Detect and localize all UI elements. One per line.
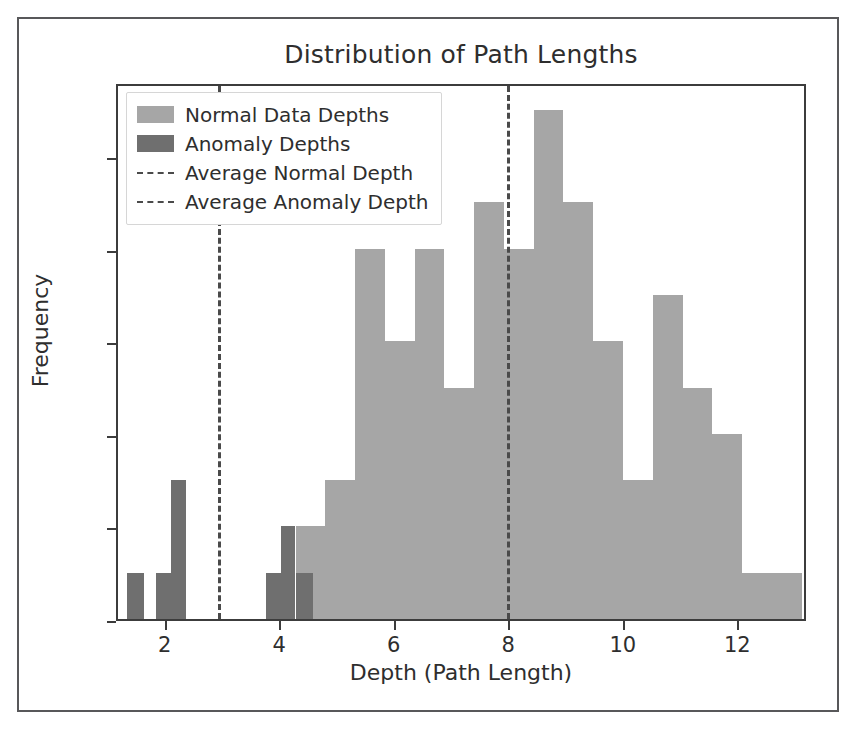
legend-dashed-line-icon xyxy=(137,201,174,203)
average-depth-line xyxy=(507,86,510,619)
legend-swatch-icon xyxy=(137,135,174,152)
histogram-bar xyxy=(712,434,742,619)
y-axis-tick xyxy=(107,436,116,438)
x-axis-label: Depth (Path Length) xyxy=(116,660,806,685)
histogram-bar xyxy=(683,388,713,619)
histogram-bar xyxy=(355,249,385,619)
histogram-bar xyxy=(171,480,186,619)
y-axis-tick xyxy=(107,343,116,345)
x-axis-tick-label: 4 xyxy=(273,633,286,657)
histogram-bar xyxy=(653,295,683,619)
x-axis-ticks: 24681012 xyxy=(116,621,806,661)
x-axis-tick xyxy=(165,621,167,630)
x-axis-tick-label: 8 xyxy=(502,633,515,657)
x-axis-tick-label: 12 xyxy=(724,633,751,657)
legend-swatch-icon xyxy=(137,106,174,123)
legend-item: Average Normal Depth xyxy=(137,158,429,187)
figure-canvas: Distribution of Path Lengths 0246810 246… xyxy=(0,0,856,729)
legend-item: Average Anomaly Depth xyxy=(137,187,429,216)
histogram-bar xyxy=(593,341,623,619)
legend-item: Normal Data Depths xyxy=(137,100,429,129)
legend-item-label: Average Normal Depth xyxy=(185,161,413,185)
histogram-bar xyxy=(296,573,313,619)
x-axis-tick-label: 10 xyxy=(609,633,636,657)
histogram-bar xyxy=(156,573,171,619)
histogram-bar xyxy=(534,110,564,619)
histogram-bar xyxy=(281,526,296,619)
histogram-bar xyxy=(772,573,802,619)
histogram-bar xyxy=(563,202,593,619)
x-axis-tick xyxy=(394,621,396,630)
histogram-bar xyxy=(325,480,355,619)
histogram-bar xyxy=(385,341,415,619)
histogram-bar xyxy=(444,388,474,619)
x-axis-tick xyxy=(508,621,510,630)
x-axis-tick-label: 6 xyxy=(387,633,400,657)
x-axis-tick xyxy=(279,621,281,630)
y-axis-tick xyxy=(107,158,116,160)
x-axis-tick xyxy=(737,621,739,630)
histogram-bar xyxy=(742,573,772,619)
y-axis-tick xyxy=(107,528,116,530)
legend-dashed-line-icon xyxy=(137,172,174,174)
chart-legend: Normal Data DepthsAnomaly DepthsAverage … xyxy=(126,92,442,225)
x-axis-tick-label: 2 xyxy=(158,633,171,657)
histogram-bar xyxy=(127,573,144,619)
x-axis-tick xyxy=(623,621,625,630)
y-axis-tick xyxy=(107,251,116,253)
histogram-bar xyxy=(415,249,445,619)
legend-item-label: Normal Data Depths xyxy=(185,103,389,127)
page-title: Distribution of Path Lengths xyxy=(116,40,806,69)
y-axis-tick xyxy=(107,621,116,623)
legend-item-label: Anomaly Depths xyxy=(185,132,350,156)
histogram-bar xyxy=(623,480,653,619)
histogram-bar xyxy=(266,573,281,619)
histogram-bar xyxy=(474,202,504,619)
legend-item: Anomaly Depths xyxy=(137,129,429,158)
legend-item-label: Average Anomaly Depth xyxy=(185,190,429,214)
y-axis-label: Frequency xyxy=(28,231,53,431)
